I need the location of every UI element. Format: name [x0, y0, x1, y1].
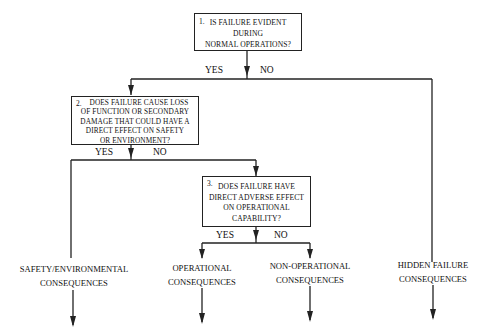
- question-2-line: DIRECT EFFECT ON SAFETY: [72, 126, 198, 135]
- outcome-hidden-failure: HIDDEN FAILURE CONSEQUENCES: [390, 258, 476, 286]
- q2-down-arrow-icon: [128, 148, 134, 158]
- question-2-line: DOES FAILURE CAUSE LOSS: [72, 98, 198, 107]
- outcome-line: CONSEQUENCES: [258, 273, 362, 287]
- question-3-box: 3. DOES FAILURE HAVE DIRECT ADVERSE EFFE…: [202, 176, 311, 227]
- question-2-number: 2.: [76, 99, 82, 108]
- safety-out-arrow-icon: [70, 316, 76, 327]
- outcome-line: HIDDEN FAILURE: [390, 258, 476, 272]
- q1-down-arrow-icon: [244, 66, 250, 76]
- hidden-out-arrow-icon: [430, 309, 436, 320]
- question-1-number: 1.: [199, 16, 205, 27]
- question-2-yes-label: YES: [95, 147, 113, 157]
- q3-no-arrow-icon: [307, 249, 313, 259]
- question-1-line: NORMAL OPERATIONS?: [195, 39, 301, 50]
- outcome-line: CONSEQUENCES: [13, 276, 135, 290]
- q3-yes-arrow-icon: [199, 249, 205, 259]
- outcome-line: SAFETY/ENVIRONMENTAL: [13, 262, 135, 276]
- question-2-line: OF FUNCTION OR SECONDARY: [72, 107, 198, 116]
- question-3-line: DOES FAILURE HAVE: [203, 182, 310, 193]
- question-1-yes-label: YES: [205, 65, 223, 75]
- question-2-box: 2. DOES FAILURE CAUSE LOSS OF FUNCTION O…: [71, 96, 199, 145]
- question-2-no-label: NO: [153, 147, 167, 157]
- q3-down-arrow-icon: [253, 230, 259, 240]
- operational-out-arrow-icon: [199, 313, 205, 324]
- question-3-line: DIRECT ADVERSE EFFECT: [203, 193, 310, 204]
- q1-yes-arrow-icon: [128, 85, 134, 95]
- question-1-box: 1. IS FAILURE EVIDENT DURING NORMAL OPER…: [194, 13, 302, 51]
- question-3-yes-label: YES: [216, 230, 234, 240]
- q2-no-arrow-icon: [253, 166, 259, 176]
- outcome-operational: OPERATIONAL CONSEQUENCES: [157, 261, 247, 289]
- question-3-line: CAPABILITY?: [203, 214, 310, 225]
- question-1-line: IS FAILURE EVIDENT: [195, 17, 301, 28]
- outcome-safety-environmental: SAFETY/ENVIRONMENTAL CONSEQUENCES: [13, 262, 135, 290]
- question-1-line: DURING: [195, 28, 301, 39]
- question-3-line: ON OPERATIONAL: [203, 203, 310, 214]
- question-2-line: OR ENVIRONMENT?: [72, 136, 198, 145]
- outcome-line: CONSEQUENCES: [390, 272, 476, 286]
- question-3-number: 3.: [207, 179, 213, 190]
- outcome-non-operational: NON-OPERATIONAL CONSEQUENCES: [258, 259, 362, 287]
- question-2-line: DAMAGE THAT COULD HAVE A: [72, 117, 198, 126]
- question-1-no-label: NO: [260, 65, 274, 75]
- question-3-no-label: NO: [274, 230, 288, 240]
- outcome-line: OPERATIONAL: [157, 261, 247, 275]
- outcome-line: CONSEQUENCES: [157, 275, 247, 289]
- non-operational-out-arrow-icon: [307, 311, 313, 322]
- outcome-line: NON-OPERATIONAL: [258, 259, 362, 273]
